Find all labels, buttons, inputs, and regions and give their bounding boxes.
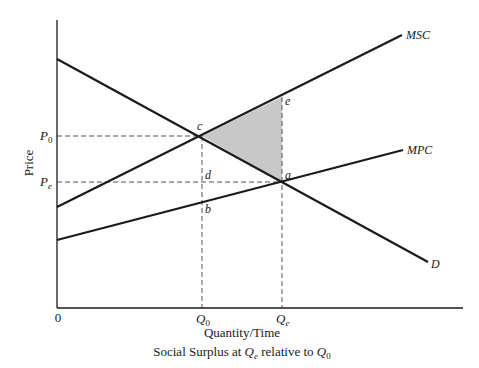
pe-tick-label: Pe — [39, 174, 52, 191]
mpc-label: MPC — [406, 143, 433, 157]
point-d-label: d — [205, 168, 212, 182]
demand-label: D — [430, 257, 440, 271]
x-axis-title: Quantity/Time — [204, 325, 280, 340]
point-e-label: e — [285, 94, 291, 108]
mpc-curve — [57, 150, 403, 240]
origin-label: 0 — [55, 310, 62, 325]
diagram-canvas: MSC MPC D c e a d b P0 Pe Price 0 Q0 Qe … — [0, 0, 479, 368]
msc-curve — [57, 35, 402, 207]
point-b-label: b — [205, 202, 211, 216]
point-a-label: a — [285, 168, 291, 182]
p0-tick-label: P0 — [39, 128, 53, 145]
msc-label: MSC — [405, 28, 431, 42]
deadweight-loss-area — [202, 97, 282, 182]
figure-caption: Social Surplus at Qe relative to Q0 — [153, 344, 331, 361]
y-axis-title: Price — [21, 149, 36, 176]
demand-curve — [57, 59, 428, 262]
point-c-label: c — [197, 119, 203, 133]
